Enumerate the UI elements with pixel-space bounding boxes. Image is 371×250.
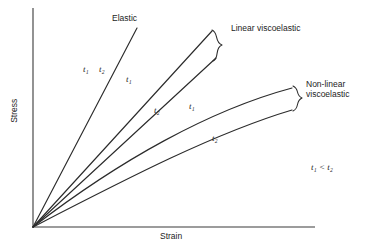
brace-linear-viscoelastic xyxy=(212,30,222,61)
curve-time-label-elastic-t2: t₂ xyxy=(99,64,105,74)
plot-canvas xyxy=(0,0,371,250)
curve-nonlinear-viscoelastic-t2 xyxy=(33,110,292,227)
brace-nonlinear-viscoelastic xyxy=(293,86,302,111)
curve-time-label-nonlinear-t2: t₂ xyxy=(212,133,218,143)
curve-elastic-t1 xyxy=(33,28,137,227)
curve-time-label-nonlinear-t1: t₁ xyxy=(189,101,195,111)
curve-nonlinear-viscoelastic-t1 xyxy=(33,88,292,227)
x-axis-label: Strain xyxy=(160,232,182,242)
label-nonlinear-viscoelastic: Non-linear viscoelastic xyxy=(306,80,349,99)
annotation-time-inequality: t₁ < t₂ xyxy=(311,162,333,172)
label-elastic: Elastic xyxy=(112,14,137,24)
curve-time-label-linear-t2: t₂ xyxy=(154,105,160,115)
label-nonlinear-line-2: viscoelastic xyxy=(306,90,349,100)
curve-time-label-linear-t1: t₁ xyxy=(126,74,132,84)
curve-linear-viscoelastic-t1 xyxy=(33,31,212,227)
curve-linear-viscoelastic-t2 xyxy=(33,58,216,227)
stress-strain-figure: Elastic Linear viscoelastic Non-linear v… xyxy=(0,0,371,250)
label-linear-viscoelastic: Linear viscoelastic xyxy=(231,24,300,34)
y-axis-label: Stress xyxy=(10,88,20,134)
curve-time-label-elastic-t1: t₁ xyxy=(83,64,89,74)
